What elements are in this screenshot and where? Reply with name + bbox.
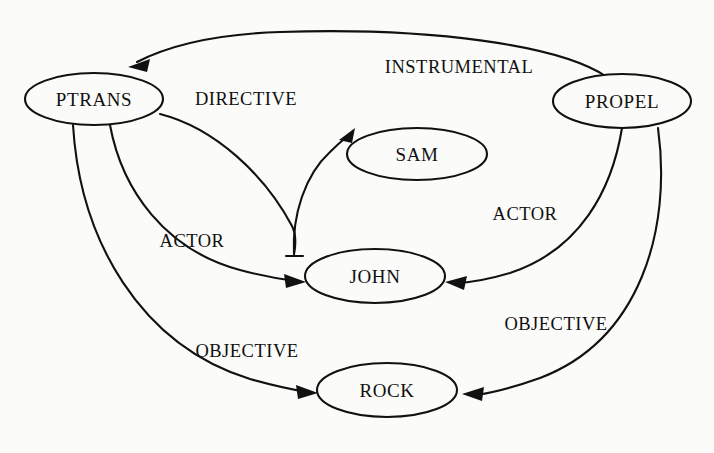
edge-objective-right-arrowhead [462, 387, 484, 401]
node-label-john: JOHN [350, 266, 401, 288]
edge-label-actor-right: ACTOR [493, 204, 558, 225]
node-label-rock: ROCK [359, 380, 414, 402]
edge-objective-right [462, 128, 661, 401]
edge-actor-right-arrowhead [445, 276, 467, 290]
edge-objective-right-path [477, 128, 661, 395]
edge-actor-left [110, 125, 306, 288]
edge-actor-left-path [110, 125, 295, 281]
node-label-propel: PROPEL [585, 91, 659, 113]
node-label-ptrans: PTRANS [56, 89, 132, 111]
edge-objective-left-arrowhead [296, 385, 318, 399]
node-label-sam: SAM [396, 144, 439, 166]
edge-label-instrumental: INSTRUMENTAL [385, 57, 533, 78]
edge-label-directive: DIRECTIVE [195, 89, 297, 110]
edge-label-objective-right: OBJECTIVE [504, 314, 607, 335]
edge-actor-left-arrowhead [284, 274, 306, 288]
diagram-canvas: PTRANS PROPEL SAM JOHN ROCK INSTRUMENTAL… [0, 0, 714, 453]
edge-label-actor-left: ACTOR [160, 231, 225, 252]
edge-directive-path-upper [294, 135, 349, 254]
edge-label-objective-left: OBJECTIVE [195, 341, 298, 362]
edge-instrumental [128, 31, 607, 77]
edge-instrumental-path [137, 31, 607, 77]
diagram-svg [0, 0, 714, 453]
